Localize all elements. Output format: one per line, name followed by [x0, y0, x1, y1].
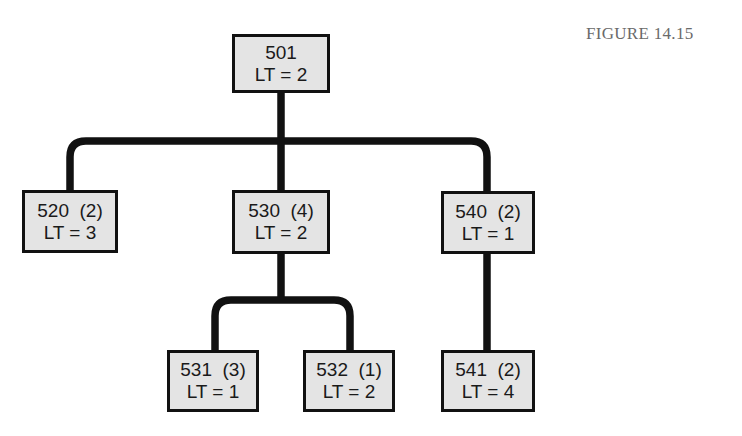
node-520-lead-time: LT = 3	[44, 222, 97, 244]
node-520: 520 (2) LT = 3	[22, 190, 118, 253]
node-541: 541 (2) LT = 4	[441, 350, 535, 412]
node-540-id: 540 (2)	[455, 201, 520, 223]
connector-530-to-531-532	[215, 300, 350, 351]
node-530-id: 530 (4)	[248, 200, 313, 222]
node-530: 530 (4) LT = 2	[232, 190, 330, 254]
figure-caption: FIGURE 14.15	[586, 24, 694, 44]
node-520-id: 520 (2)	[37, 200, 102, 222]
node-541-id: 541 (2)	[455, 359, 520, 381]
product-structure-tree: 501 LT = 2 520 (2) LT = 3 530 (4) LT = 2…	[0, 0, 742, 436]
node-540: 540 (2) LT = 1	[441, 191, 535, 254]
node-531: 531 (3) LT = 1	[167, 350, 259, 412]
node-501: 501 LT = 2	[232, 34, 330, 93]
node-530-lead-time: LT = 2	[255, 222, 308, 244]
node-541-lead-time: LT = 4	[462, 381, 515, 403]
node-531-lead-time: LT = 1	[187, 381, 240, 403]
node-532: 532 (1) LT = 2	[303, 350, 395, 412]
node-532-lead-time: LT = 2	[323, 381, 376, 403]
node-540-lead-time: LT = 1	[462, 223, 515, 245]
node-532-id: 532 (1)	[316, 359, 381, 381]
node-501-lead-time: LT = 2	[255, 64, 308, 86]
node-531-id: 531 (3)	[180, 359, 245, 381]
node-501-id: 501	[265, 42, 297, 64]
